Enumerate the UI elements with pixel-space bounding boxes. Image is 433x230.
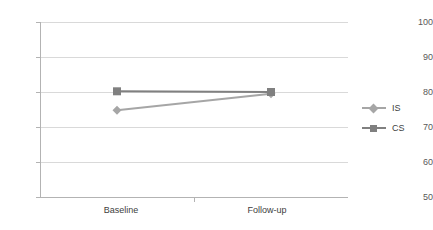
line-chart: 100 90 80 70 60 50 Baseline Follow-up IS… [0, 0, 433, 230]
y-tick-label-100: 100 [401, 18, 433, 27]
square-marker-icon [370, 125, 377, 132]
gridline-100 [40, 22, 348, 23]
plot-area [40, 22, 348, 197]
y-tick-label-50: 50 [401, 193, 433, 202]
y-tick-mark-70 [36, 127, 40, 128]
legend: IS CS [362, 98, 430, 138]
y-tick-mark-100 [36, 22, 40, 23]
gridline-60 [40, 162, 348, 163]
y-tick-label-60: 60 [401, 158, 433, 167]
gridline-80 [40, 92, 348, 93]
legend-label-cs: CS [386, 124, 405, 133]
legend-label-is: IS [386, 104, 401, 113]
legend-swatch-cs [362, 122, 386, 134]
y-axis-line [40, 22, 41, 197]
legend-entry-is[interactable]: IS [362, 98, 430, 118]
y-tick-mark-80 [36, 92, 40, 93]
legend-swatch-is [362, 102, 386, 114]
diamond-marker-icon [369, 104, 379, 114]
x-tick-label-baseline: Baseline [91, 206, 151, 215]
legend-entry-cs[interactable]: CS [362, 118, 430, 138]
y-tick-label-90: 90 [401, 53, 433, 62]
gridline-90 [40, 57, 348, 58]
y-tick-label-80: 80 [401, 88, 433, 97]
y-tick-mark-90 [36, 57, 40, 58]
y-tick-mark-60 [36, 162, 40, 163]
x-tick-label-follow-up: Follow-up [237, 206, 297, 215]
gridline-70 [40, 127, 348, 128]
x-tick-mark-baseline [194, 197, 195, 202]
